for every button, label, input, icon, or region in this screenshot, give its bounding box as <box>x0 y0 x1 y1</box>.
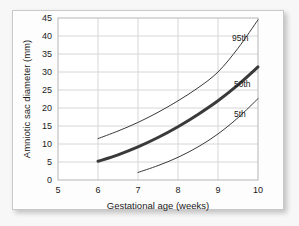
plot-background <box>58 18 258 180</box>
series-label-95th: 95th <box>232 33 249 43</box>
y-tick-label: 0 <box>47 175 52 185</box>
y-tick-label: 15 <box>42 121 52 131</box>
x-tick-labels: 5678910 <box>55 185 263 195</box>
y-tick-label: 45 <box>42 13 52 23</box>
x-tick-label: 5 <box>55 185 60 195</box>
chart-figure: 5678910 051015202530354045 95th50th5th G… <box>0 0 299 226</box>
y-tick-label: 40 <box>42 31 52 41</box>
y-tick-labels: 051015202530354045 <box>42 13 52 185</box>
x-tick-label: 10 <box>253 185 263 195</box>
y-tick-label: 5 <box>47 157 52 167</box>
y-tick-label: 20 <box>42 103 52 113</box>
x-tick-label: 7 <box>135 185 140 195</box>
chart-plot: 5678910 051015202530354045 95th50th5th G… <box>0 0 299 226</box>
x-tick-label: 6 <box>95 185 100 195</box>
y-tick-label: 35 <box>42 49 52 59</box>
x-tick-label: 8 <box>175 185 180 195</box>
x-tick-label: 9 <box>215 185 220 195</box>
x-axis-title: Gestational age (weeks) <box>107 200 209 211</box>
y-tick-label: 10 <box>42 139 52 149</box>
y-tick-label: 25 <box>42 85 52 95</box>
y-tick-label: 30 <box>42 67 52 77</box>
series-label-5th: 5th <box>234 109 246 119</box>
y-axis-title: Amniotic sac diameter (mm) <box>21 40 32 158</box>
series-label-50th: 50th <box>234 79 251 89</box>
